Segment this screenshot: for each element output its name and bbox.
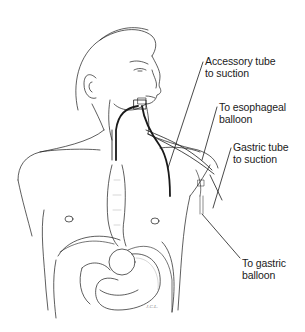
label-esophageal-balloon: To esophageal balloon xyxy=(219,102,286,125)
label-gastric-balloon-line2: balloon xyxy=(242,270,286,282)
label-gastric-balloon: To gastric balloon xyxy=(242,258,286,281)
label-gastric-tube-suction: Gastric tube to suction xyxy=(233,142,288,165)
label-accessory-line1: Accessory tube xyxy=(205,56,275,68)
tube-bundle xyxy=(112,98,214,196)
label-esophageal-line2: balloon xyxy=(219,114,286,126)
torso-outline xyxy=(18,130,218,318)
stomach xyxy=(80,249,160,310)
gastric-tube-loop xyxy=(60,241,172,312)
label-gastric-suction-line2: to suction xyxy=(233,154,288,166)
label-accessory-line2: to suction xyxy=(205,68,275,80)
label-accessory-tube: Accessory tube to suction xyxy=(205,56,275,79)
label-gastric-suction-line1: Gastric tube xyxy=(233,142,288,154)
leader-lines xyxy=(168,62,240,258)
label-esophageal-line1: To esophageal xyxy=(219,102,286,114)
label-gastric-balloon-line1: To gastric xyxy=(242,258,286,270)
artist-signature: J.C.L. xyxy=(146,304,158,309)
esophageal-balloon xyxy=(107,165,126,246)
medical-illustration xyxy=(0,0,305,332)
